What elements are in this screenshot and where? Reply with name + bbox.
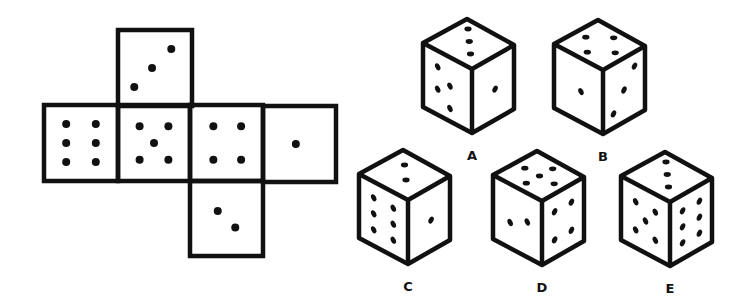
- pip-dot: [582, 35, 589, 40]
- pip-dot: [401, 163, 408, 168]
- pip-dot: [62, 139, 70, 147]
- pip-dot: [209, 122, 217, 130]
- pip-dot: [150, 139, 158, 147]
- option-label-c[interactable]: C: [403, 280, 413, 293]
- die-option-c[interactable]: [359, 150, 450, 264]
- pip-dot: [665, 185, 672, 190]
- pip-dot: [464, 27, 471, 32]
- pip-dot: [148, 64, 156, 72]
- net-face-left: [44, 105, 118, 181]
- pip-dot: [231, 224, 239, 232]
- pip-dot: [164, 122, 172, 130]
- pip-dot: [62, 158, 70, 166]
- pip-dot: [130, 83, 138, 91]
- pip-dot: [237, 122, 245, 130]
- pip-dot: [612, 50, 619, 55]
- option-label-a[interactable]: A: [467, 149, 477, 162]
- pip-dot: [523, 181, 530, 186]
- option-label-d[interactable]: D: [537, 281, 548, 294]
- option-label-e[interactable]: E: [666, 282, 675, 295]
- die-option-d[interactable]: [493, 151, 584, 265]
- pip-dot: [551, 181, 558, 186]
- net-face-center: [118, 105, 190, 181]
- puzzle-canvas: [0, 0, 752, 307]
- net-face-top: [118, 30, 192, 106]
- pip-dot: [402, 178, 409, 183]
- pip-dot: [62, 120, 70, 128]
- net-face-bottom: [190, 181, 263, 256]
- pip-dot: [214, 207, 222, 215]
- pip-dot: [467, 52, 474, 57]
- cube-net: [44, 30, 336, 256]
- pip-dot: [292, 140, 300, 148]
- pip-dot: [584, 50, 591, 55]
- pip-dot: [237, 156, 245, 164]
- die-option-b[interactable]: [554, 20, 645, 134]
- pip-dot: [136, 122, 144, 130]
- pip-dot: [664, 172, 671, 177]
- die-option-a[interactable]: [423, 19, 514, 133]
- net-face-right: [263, 106, 336, 182]
- pip-dot: [136, 156, 144, 164]
- pip-dot: [536, 174, 543, 179]
- pip-dot: [164, 156, 172, 164]
- pip-dot: [466, 39, 473, 44]
- dice-options: [359, 19, 712, 266]
- pip-dot: [92, 120, 100, 128]
- pip-dot: [610, 35, 617, 40]
- net-face-mid: [190, 105, 263, 181]
- pip-dot: [167, 45, 175, 53]
- pip-dot: [662, 160, 669, 165]
- pip-dot: [549, 166, 556, 171]
- option-label-b[interactable]: B: [598, 150, 608, 163]
- die-option-e[interactable]: [621, 152, 712, 266]
- pip-dot: [92, 139, 100, 147]
- pip-dot: [92, 158, 100, 166]
- pip-dot: [521, 166, 528, 171]
- pip-dot: [209, 156, 217, 164]
